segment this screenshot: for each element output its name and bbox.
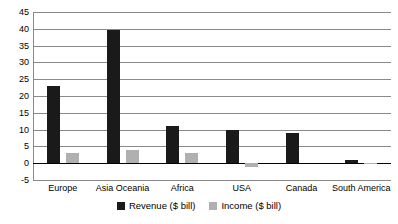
bar-revenue — [345, 160, 358, 163]
plot-area: 454035302520151050-5 — [33, 12, 391, 180]
legend-label: Revenue ($ bill) — [129, 200, 196, 211]
legend-swatch-income — [209, 202, 217, 210]
bar-groups — [33, 12, 391, 180]
y-axis-tick-label: 25 — [19, 75, 29, 84]
bar-chart: 454035302520151050-5 EuropeAsia OceaniaA… — [0, 0, 398, 224]
bar-group — [93, 12, 153, 180]
y-axis-tick-label: 30 — [19, 58, 29, 67]
bar-revenue — [47, 86, 60, 163]
y-axis-tick-label: 20 — [19, 92, 29, 101]
chart-legend: Revenue ($ bill)Income ($ bill) — [0, 200, 398, 211]
y-axis-tick-label: 5 — [24, 142, 29, 151]
y-axis-tick-label: 15 — [19, 108, 29, 117]
x-axis-category-label: Africa — [152, 181, 212, 196]
bar-income — [185, 153, 198, 163]
legend-swatch-revenue — [117, 202, 125, 210]
bar-group — [331, 12, 391, 180]
x-axis-category-labels: EuropeAsia OceaniaAfricaUSACanadaSouth A… — [33, 181, 391, 196]
bar-revenue — [286, 133, 299, 163]
bar-revenue — [166, 126, 179, 163]
bar-group — [33, 12, 93, 180]
x-axis-category-label: Asia Oceania — [93, 181, 153, 196]
y-axis-tick-label: -5 — [21, 176, 29, 185]
legend-item: Revenue ($ bill) — [117, 200, 196, 211]
y-axis-tick-label: 10 — [19, 125, 29, 134]
y-axis-tick-label: 40 — [19, 24, 29, 33]
bar-group — [152, 12, 212, 180]
x-axis-category-label: South America — [331, 181, 391, 196]
y-axis-tick-label: 0 — [24, 159, 29, 168]
legend-label: Income ($ bill) — [221, 200, 281, 211]
y-axis-tick-label: 35 — [19, 41, 29, 50]
x-axis-category-label: Canada — [272, 181, 332, 196]
bar-revenue — [226, 130, 239, 164]
x-axis-category-label: USA — [212, 181, 272, 196]
bar-income — [126, 150, 139, 163]
bar-income — [66, 153, 79, 163]
bar-group — [272, 12, 332, 180]
legend-item: Income ($ bill) — [209, 200, 281, 211]
bar-income — [245, 163, 258, 166]
y-axis-tick-label: 45 — [19, 8, 29, 17]
bar-group — [212, 12, 272, 180]
bar-revenue — [107, 30, 120, 163]
bar-income — [364, 163, 377, 164]
x-axis-category-label: Europe — [33, 181, 93, 196]
